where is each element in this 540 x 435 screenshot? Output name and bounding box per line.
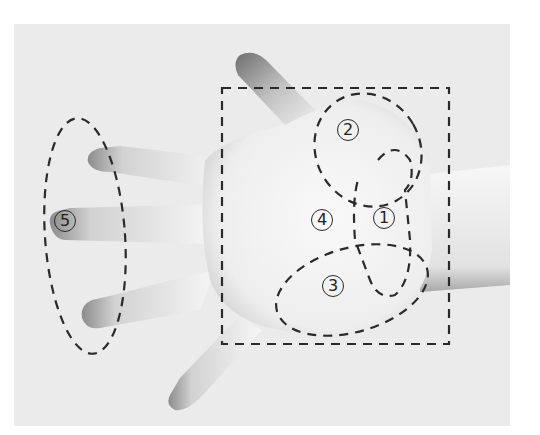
region-label-3: 3 — [322, 275, 344, 297]
region-label-1: 1 — [373, 207, 395, 229]
hand-illustration — [0, 0, 540, 435]
wrist — [420, 165, 510, 292]
region-label-5: 5 — [54, 210, 76, 232]
little-finger — [168, 315, 262, 410]
region-label-2: 2 — [337, 119, 359, 141]
region-label-4: 4 — [311, 209, 333, 231]
ring-finger — [82, 270, 215, 328]
